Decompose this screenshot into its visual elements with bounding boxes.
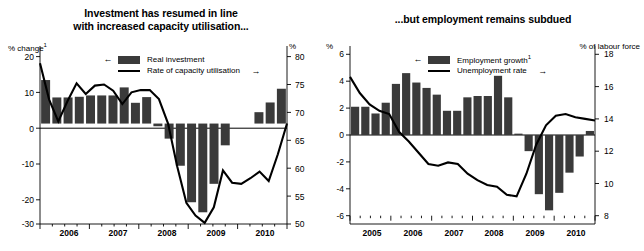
ytick-left-0: 20 [6, 52, 34, 62]
xtick-label-2009: 2009 [195, 228, 237, 238]
xtick-label-2007: 2007 [97, 228, 139, 238]
ytick-left-3: 0 [322, 130, 344, 140]
xtick-label-2010: 2010 [244, 228, 286, 238]
ytick-right-0: 80 [295, 52, 304, 62]
ytick-left-4: -2 [322, 157, 344, 167]
ytick-left-1: 10 [6, 88, 34, 98]
ytick-left-3: -10 [6, 159, 34, 169]
ytick-left-2: 0 [6, 124, 34, 134]
chart-panel-investment: Investment has resumed in line with incr… [0, 0, 322, 251]
ytick-left-1: 4 [322, 76, 344, 86]
ytick-left-4: -20 [6, 195, 34, 205]
ytick-right-1: 75 [295, 80, 304, 90]
ytick-right-4: 10 [604, 179, 613, 189]
xtick-label-2006: 2006 [48, 228, 90, 238]
xtick-label-2010: 2010 [555, 228, 597, 238]
ytick-right-2: 14 [604, 114, 613, 124]
xtick-label-2007: 2007 [433, 228, 475, 238]
ytick-right-1: 16 [604, 82, 613, 92]
ytick-left-5: -4 [322, 184, 344, 194]
ytick-left-5: -30 [6, 219, 34, 229]
ytick-right-5: 55 [295, 192, 304, 202]
ytick-left-6: -6 [322, 211, 344, 221]
ytick-right-3: 65 [295, 136, 304, 146]
ytick-right-5: 8 [604, 211, 609, 221]
xtick-label-2009: 2009 [514, 228, 556, 238]
ytick-right-2: 70 [295, 108, 304, 118]
ytick-left-2: 2 [322, 103, 344, 113]
ytick-right-4: 60 [295, 164, 304, 174]
xtick-label-2008: 2008 [473, 228, 515, 238]
ytick-right-0: 18 [604, 49, 613, 59]
ytick-left-0: 6 [322, 49, 344, 59]
ytick-right-3: 12 [604, 146, 613, 156]
plot-area-employment [322, 0, 644, 251]
xtick-label-2008: 2008 [146, 228, 188, 238]
plot-area-investment [0, 0, 322, 251]
xtick-label-2005: 2005 [351, 228, 393, 238]
ytick-right-6: 50 [295, 219, 304, 229]
chart-panel-employment: ...but employment remains subdued % % of… [322, 0, 644, 251]
figure-panels: Investment has resumed in line with incr… [0, 0, 644, 251]
xtick-label-2006: 2006 [392, 228, 434, 238]
